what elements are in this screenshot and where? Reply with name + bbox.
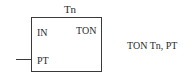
ton-function-block: IN TON PT <box>31 17 102 72</box>
block-type-label: TON <box>76 25 96 36</box>
block-instance-name: Tn <box>58 3 82 15</box>
pt-input-wire <box>16 59 31 60</box>
input-pin-pt: PT <box>37 55 49 66</box>
input-pin-in: IN <box>37 27 48 38</box>
instruction-statement: TON Tn, PT <box>127 40 177 51</box>
